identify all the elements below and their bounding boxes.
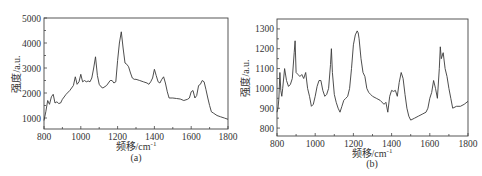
x-tick-label: 1800 (459, 139, 478, 149)
panel-caption: (b) (366, 158, 378, 170)
y-axis-label: 强度/a.u. (240, 59, 251, 96)
raman-spectrum-chart-a: 8001000120014001600180010002000300040005… (0, 0, 240, 176)
y-tick-label: 800 (260, 124, 275, 134)
x-tick-label: 1600 (420, 139, 439, 149)
plot-frame (277, 19, 468, 136)
y-tick-label: 1200 (255, 44, 274, 54)
spectrum-line (277, 31, 468, 120)
y-tick-label: 5000 (22, 14, 41, 24)
x-tick-label: 1800 (219, 132, 238, 142)
y-tick-label: 1100 (255, 64, 274, 74)
chart-panel-a: 8001000120014001600180010002000300040005… (0, 0, 240, 176)
y-tick-label: 4000 (22, 39, 41, 49)
y-tick-label: 2000 (22, 89, 41, 99)
x-tick-label: 800 (270, 139, 285, 149)
panel-caption: (a) (130, 152, 141, 164)
raman-spectrum-chart-b: 8001000120014001600180080090010001100120… (240, 0, 482, 176)
y-tick-label: 1300 (255, 24, 274, 34)
spectrum-line (44, 32, 228, 121)
y-tick-label: 1000 (22, 114, 41, 124)
y-tick-label: 3000 (22, 64, 41, 74)
chart-panel-b: 8001000120014001600180080090010001100120… (240, 0, 482, 176)
y-tick-label: 1000 (255, 84, 274, 94)
y-tick-label: 900 (260, 104, 275, 114)
plot-frame (44, 18, 228, 129)
x-axis-label: 频移/cm-1 (116, 140, 157, 152)
x-tick-label: 1000 (306, 139, 325, 149)
x-tick-label: 800 (37, 132, 52, 142)
axis-ticks: 8001000120014001600180010002000300040005… (22, 14, 238, 143)
x-tick-label: 1000 (71, 132, 90, 142)
y-axis-label: 强度/a.u. (10, 55, 22, 92)
x-tick-label: 1600 (182, 132, 201, 142)
